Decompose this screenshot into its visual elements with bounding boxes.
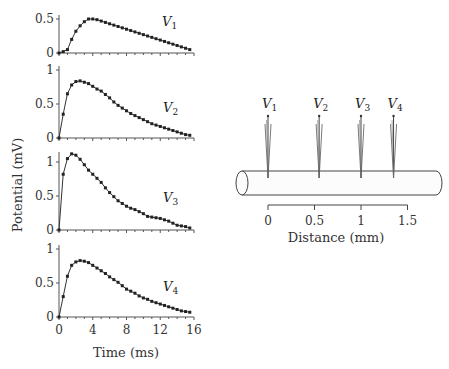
data-point	[155, 37, 158, 40]
data-point	[70, 38, 73, 41]
x-tick-label: 4	[89, 323, 97, 337]
data-point	[150, 300, 153, 303]
data-point	[176, 130, 179, 133]
data-point	[100, 90, 103, 93]
data-point	[62, 173, 65, 176]
data-point	[108, 22, 111, 25]
data-point	[58, 229, 61, 232]
data-point	[171, 129, 174, 132]
data-point	[125, 288, 128, 291]
electrode-3: V3	[355, 96, 370, 178]
y-tick-label: 0.5	[35, 97, 54, 111]
data-point	[79, 79, 82, 82]
series-label: V3	[163, 190, 178, 207]
data-point	[104, 272, 107, 275]
data-point	[100, 181, 103, 184]
data-point	[62, 113, 65, 116]
data-point	[180, 224, 183, 227]
data-point	[133, 292, 136, 295]
data-point	[83, 81, 86, 84]
data-point	[163, 218, 166, 221]
data-point	[95, 267, 98, 270]
distance-tick-label: 0.5	[305, 214, 324, 228]
data-point	[83, 163, 86, 166]
data-point	[104, 21, 107, 24]
data-point	[150, 216, 153, 219]
panel-v3: 00.51V3	[35, 152, 194, 237]
y-tick-label: 1	[46, 155, 54, 169]
data-point	[117, 104, 120, 107]
data-point	[74, 80, 77, 83]
data-point	[79, 259, 82, 262]
data-point	[138, 210, 141, 213]
cable-diagram: V1V2V3V400.511.5	[236, 96, 442, 228]
data-point	[58, 52, 61, 55]
data-point	[87, 18, 90, 21]
data-point	[74, 30, 77, 33]
data-point	[117, 25, 120, 28]
electrode-2: V2	[313, 96, 328, 178]
data-point	[180, 45, 183, 48]
data-point	[91, 173, 94, 176]
data-point	[66, 157, 69, 160]
distance-tick-label: 1	[357, 214, 365, 228]
data-point	[159, 217, 162, 220]
data-point	[163, 40, 166, 43]
data-point	[87, 82, 90, 85]
data-point	[155, 301, 158, 304]
y-tick-label: 0	[46, 46, 54, 60]
data-point	[83, 260, 86, 263]
data-point	[112, 100, 115, 103]
data-point	[91, 85, 94, 88]
data-point	[108, 275, 111, 278]
series-label: V1	[162, 14, 177, 31]
data-point	[95, 18, 98, 21]
y-axis-label: Potential (mV)	[10, 138, 25, 233]
data-point	[83, 20, 86, 23]
distance-tick-label: 1.5	[398, 214, 417, 228]
data-point	[184, 133, 187, 136]
y-tick-label: 1	[46, 242, 54, 256]
electrode-label: V4	[388, 96, 403, 113]
data-point	[138, 294, 141, 297]
data-point	[150, 36, 153, 39]
electrode-1: V1	[262, 96, 277, 178]
data-point	[108, 191, 111, 194]
data-point	[95, 88, 98, 91]
electrode-4: V4	[388, 96, 403, 178]
data-point	[176, 44, 179, 47]
data-point	[142, 118, 145, 121]
electrode-label: V3	[355, 96, 370, 113]
data-point	[58, 137, 61, 140]
data-point	[129, 112, 132, 115]
series-label: V4	[163, 279, 178, 296]
x-tick-label: 0	[55, 323, 63, 337]
data-point	[163, 304, 166, 307]
data-point	[112, 278, 115, 281]
data-point	[125, 205, 128, 208]
data-point	[146, 298, 149, 301]
data-point	[138, 116, 141, 119]
panel-v2: 00.51V2	[35, 63, 194, 145]
data-point	[184, 225, 187, 228]
x-tick-label: 8	[123, 323, 131, 337]
distance-axis-label: Distance (mm)	[288, 230, 385, 245]
data-point	[125, 28, 128, 31]
y-tick-label: 0	[46, 223, 54, 237]
panel-v1: 00.5V1	[35, 12, 194, 60]
data-point	[117, 199, 120, 202]
data-point	[180, 309, 183, 312]
data-point	[159, 125, 162, 128]
distance-tick-label: 0	[264, 214, 272, 228]
data-point	[167, 41, 170, 44]
data-point	[171, 307, 174, 310]
data-point	[155, 124, 158, 127]
y-tick-label: 0.5	[35, 12, 54, 26]
data-point	[146, 35, 149, 38]
data-point	[150, 122, 153, 125]
data-point	[121, 107, 124, 110]
data-point	[121, 284, 124, 287]
data-point	[159, 39, 162, 42]
cable-body	[242, 171, 442, 195]
data-point	[180, 132, 183, 135]
